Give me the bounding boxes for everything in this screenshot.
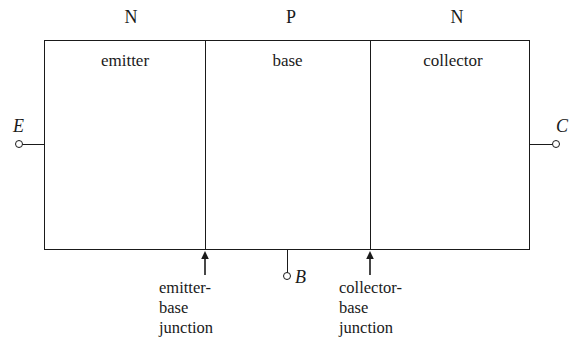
collector-base-junction-line xyxy=(370,40,371,250)
arrow-up-icon-emitter-base xyxy=(198,251,212,275)
region-label-emitter: emitter xyxy=(60,50,190,72)
emitter-base-junction-line xyxy=(205,40,206,250)
base-terminal-node xyxy=(283,272,291,280)
caption-line: collector- xyxy=(339,278,402,298)
region-label-collector: collector xyxy=(392,50,514,72)
emitter-terminal-node xyxy=(15,140,23,148)
collector-terminal-label: C xyxy=(556,116,568,136)
caption-line: junction xyxy=(339,318,402,338)
transistor-structure-diagram: N P N emitter base collector E C B emitt… xyxy=(0,0,576,362)
emitter-lead-wire xyxy=(22,144,45,145)
caption-line: junction xyxy=(159,318,213,338)
arrow-up-icon-collector-base xyxy=(363,251,377,275)
collector-lead-wire xyxy=(530,144,553,145)
doping-label-collector: N xyxy=(437,6,477,28)
base-terminal-label: B xyxy=(295,267,306,287)
emitter-terminal-label: E xyxy=(13,116,24,136)
base-lead-wire xyxy=(287,250,288,273)
doping-label-base: P xyxy=(271,6,311,28)
caption-line: base xyxy=(159,298,213,318)
caption-line: base xyxy=(339,298,402,318)
caption-line: emitter- xyxy=(159,278,213,298)
collector-base-junction-caption: collector- base junction xyxy=(339,278,402,338)
doping-label-emitter: N xyxy=(111,6,151,28)
region-label-base: base xyxy=(230,50,345,72)
collector-terminal-node xyxy=(552,140,560,148)
emitter-base-junction-caption: emitter- base junction xyxy=(159,278,213,338)
